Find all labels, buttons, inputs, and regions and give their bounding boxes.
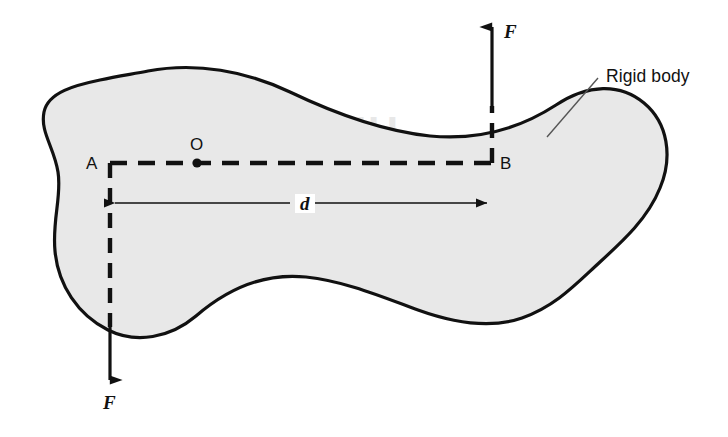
label-point-a: A (86, 155, 98, 172)
label-point-b: B (500, 155, 512, 172)
label-force-down: F (103, 393, 116, 412)
label-dimension-d: d (295, 194, 315, 213)
point-o-marker (192, 158, 201, 167)
label-rigid-body: Rigid body (606, 68, 690, 86)
figure-canvas: UILIBRIUM SS CENTRE (0, 0, 728, 437)
label-force-up: F (504, 22, 517, 41)
label-point-o: O (190, 136, 203, 153)
